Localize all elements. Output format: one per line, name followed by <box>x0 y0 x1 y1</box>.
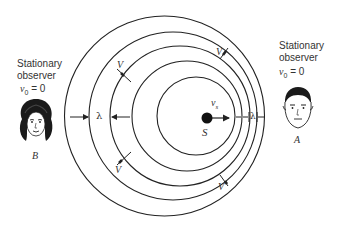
right-velocity-sub: 0 <box>283 72 287 79</box>
source-label: S <box>202 126 208 138</box>
right-observer-line1: Stationary <box>279 40 324 52</box>
wavelength-right-label: λ <box>250 110 256 122</box>
wave-speed-label-upper-right: V <box>216 46 222 58</box>
left-velocity-sub: 0 <box>24 89 28 96</box>
observer-a-name: A <box>294 134 300 146</box>
observer-a-face-icon <box>281 86 315 130</box>
wavefront-3 <box>110 46 250 186</box>
source-dot <box>202 113 213 124</box>
left-observer-label: Stationary observer <box>17 58 62 82</box>
source-velocity-sub: s <box>215 103 218 111</box>
observer-b-face-icon <box>16 97 56 145</box>
left-observer-line2: observer <box>17 70 62 82</box>
wave-speed-label-upper-left: V <box>117 59 123 71</box>
wave-speed-label-lower-right: V <box>218 181 224 193</box>
wave-speed-label-lower-left: V <box>115 164 121 176</box>
right-observer-velocity: v0 = 0 <box>279 66 304 82</box>
left-velocity-value: = 0 <box>31 83 45 94</box>
wavefront-5 <box>157 77 235 155</box>
observer-b-name: B <box>32 150 38 162</box>
right-velocity-value: = 0 <box>290 66 304 77</box>
right-observer-label: Stationary observer <box>279 40 324 64</box>
source-velocity-label: vs <box>211 97 218 113</box>
wavefronts <box>65 16 265 216</box>
wavelength-left-label: λ <box>96 110 102 122</box>
left-observer-line1: Stationary <box>17 58 62 70</box>
right-observer-line2: observer <box>279 52 324 64</box>
